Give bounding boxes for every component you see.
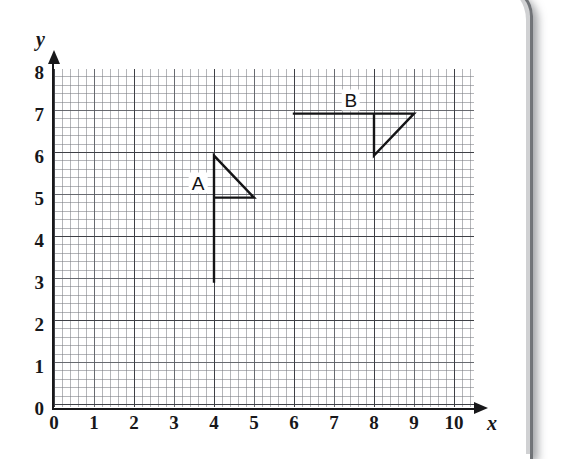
y-tick-5: 5 [14,188,44,207]
x-tick-0: 0 [49,413,59,432]
grid-top-mask [54,66,474,69]
x-tick-1: 1 [89,413,99,432]
x-tick-2: 2 [129,413,139,432]
y-tick-2: 2 [14,314,44,333]
y-axis-line [52,62,54,410]
x-tick-7: 7 [329,413,339,432]
grid-major-lines [54,68,474,407]
y-tick-6: 6 [14,146,44,165]
x-tick-4: 4 [209,413,219,432]
y-axis-arrow-icon [48,50,60,64]
shape-label-a: A [189,172,208,193]
x-tick-5: 5 [249,413,259,432]
x-tick-8: 8 [369,413,379,432]
y-tick-7: 7 [14,104,44,123]
x-axis-line [52,408,478,410]
x-axis-arrow-icon [474,402,488,414]
y-tick-3: 3 [14,272,44,291]
y-tick-4: 4 [14,230,44,249]
shape-label-b: B [341,90,360,111]
x-tick-3: 3 [169,413,179,432]
y-axis-label: y [36,28,45,51]
coordinate-grid [54,68,474,407]
x-axis-label: x [487,412,497,435]
x-tick-9: 9 [409,413,419,432]
y-tick-1: 1 [14,356,44,375]
x-tick-10: 10 [445,413,464,432]
y-tick-0: 0 [14,398,44,417]
y-tick-8: 8 [14,62,44,81]
x-tick-6: 6 [289,413,299,432]
